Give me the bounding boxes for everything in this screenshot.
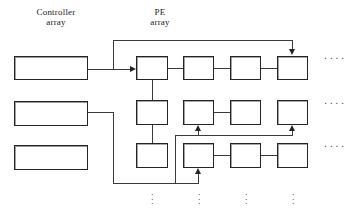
- column-1-continuation-dots: ...: [151, 190, 153, 204]
- feedback-bus-mid-horizontal: [175, 135, 293, 136]
- link-pe-r1c1-to-r2c1: [152, 80, 153, 100]
- link-pe-r2c1-to-r3c1: [152, 125, 153, 143]
- controller-array-label: Controller array: [10, 7, 102, 27]
- feedback-bus-mid-riser-col4: [292, 131, 293, 136]
- column-2-continuation-dots: ...: [198, 190, 200, 204]
- link-pe-r1c1-to-r1c2: [168, 68, 183, 69]
- feedback-bus-top-left-riser: [113, 40, 114, 70]
- connector-controller2-drop: [113, 112, 114, 183]
- arrowhead-into-pe-r2c2: [195, 125, 201, 131]
- pe-array-label: PE array: [128, 7, 192, 27]
- pe-r2c1[interactable]: [136, 100, 168, 125]
- row-2-continuation-dots: ....: [324, 98, 347, 102]
- pe-r2c4[interactable]: [277, 100, 308, 125]
- arrowhead-into-pe-r3c2: [195, 168, 201, 174]
- connector-controller2-out: [88, 112, 114, 113]
- feedback-bus-mid-riser-col2: [198, 131, 199, 136]
- pe-r1c1[interactable]: [136, 56, 168, 80]
- link-pe-r1c3-to-r1c4: [261, 68, 277, 69]
- column-4-continuation-dots: ...: [292, 190, 294, 204]
- connector-controller1-to-pe-r1c1: [88, 69, 130, 70]
- feedback-bus-bottom-riser-col2: [198, 174, 199, 183]
- pe-r2c3[interactable]: [230, 100, 261, 125]
- pe-r3c2[interactable]: [183, 143, 214, 168]
- arrowhead-into-pe-r1c1: [130, 66, 136, 72]
- column-3-continuation-dots: ...: [245, 190, 247, 204]
- controller-box-3[interactable]: [14, 145, 88, 170]
- feedback-bus-mid-left-riser: [175, 135, 176, 183]
- arrowhead-into-pe-r2c4: [289, 125, 295, 131]
- link-pe-r1c2-to-r1c3: [214, 68, 230, 69]
- pe-r1c4[interactable]: [277, 56, 308, 80]
- controller-box-1[interactable]: [14, 56, 88, 80]
- row-3-continuation-dots: ....: [324, 141, 347, 145]
- pe-r3c1[interactable]: [136, 143, 168, 168]
- pe-r1c3[interactable]: [230, 56, 261, 80]
- pe-r3c3[interactable]: [230, 143, 261, 168]
- controller-box-2[interactable]: [14, 101, 88, 126]
- row-1-continuation-dots: ....: [324, 53, 347, 57]
- link-pe-r3c3-to-r3c4: [261, 155, 277, 156]
- arrowhead-into-pe-r1c4: [289, 49, 295, 55]
- pe-r3c4[interactable]: [277, 143, 308, 168]
- link-pe-r3c2-to-r3c3: [214, 155, 230, 156]
- feedback-bus-top-horizontal: [113, 40, 293, 41]
- feedback-bus-bottom-horizontal: [113, 183, 199, 184]
- pe-r2c2[interactable]: [183, 100, 214, 125]
- link-pe-r2c2-to-r2c3: [214, 112, 230, 113]
- diagram-canvas: Controller array PE array: [0, 0, 359, 216]
- pe-r1c2[interactable]: [183, 56, 214, 80]
